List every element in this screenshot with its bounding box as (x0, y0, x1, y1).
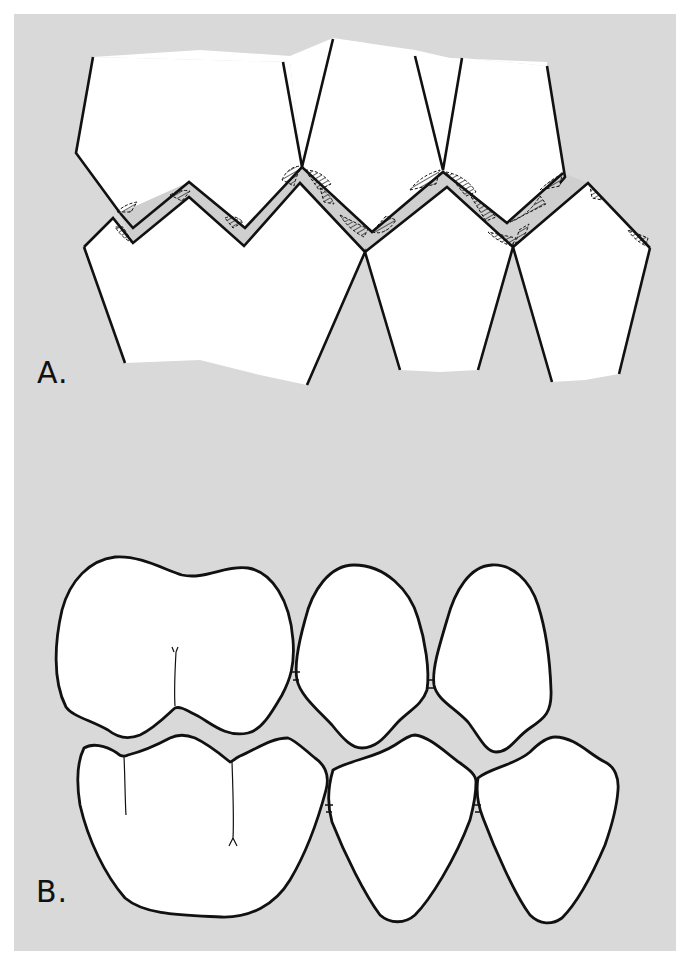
figure-canvas (0, 0, 691, 957)
panel-label-a: A. (37, 355, 69, 390)
panel-label-b: B. (36, 874, 68, 909)
dental-occlusion-figure: A. B. (0, 0, 691, 957)
